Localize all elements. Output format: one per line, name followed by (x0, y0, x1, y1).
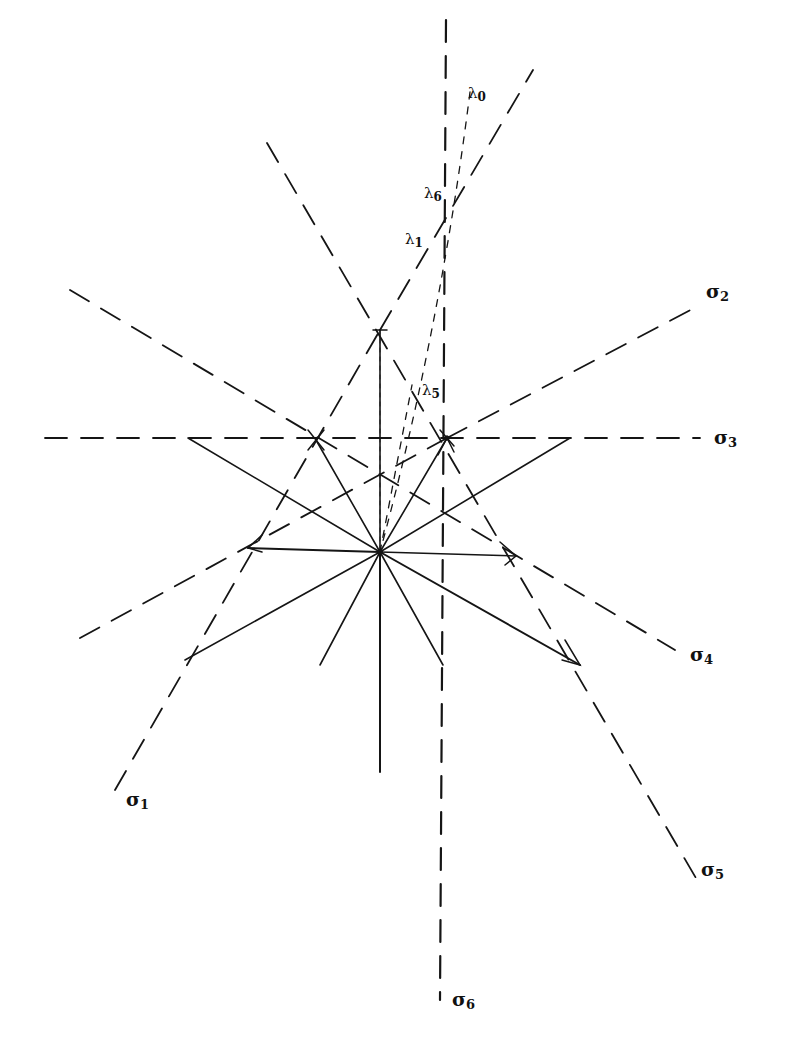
label-lambda-0: λ0 (468, 86, 486, 101)
point-b (445, 436, 449, 440)
label-sigma-6: σ6 (452, 990, 475, 1009)
sigma-1-line (115, 330, 380, 790)
label-sigma-4: σ4 (690, 645, 713, 664)
lambda-1-line (380, 70, 533, 330)
label-sigma-3: σ3 (714, 428, 737, 447)
label-lambda-5: λ5 (422, 383, 440, 398)
lower-left-line (80, 438, 447, 638)
center-point (378, 550, 383, 555)
label-sigma-5: σ5 (701, 860, 724, 879)
label-lambda-6: λ6 (424, 186, 442, 201)
dashed-lines (45, 20, 700, 1000)
sigma-6-line (440, 20, 446, 1000)
lambda-5-line (380, 385, 412, 552)
arrowhead-right (500, 542, 516, 565)
label-sigma-2: σ2 (706, 282, 729, 301)
sigma-2-line (447, 305, 700, 438)
label-lambda-1: λ1 (405, 232, 423, 247)
diagram-canvas (0, 0, 785, 1062)
label-sigma-1: σ1 (126, 790, 149, 809)
sigma-5-line (267, 143, 700, 885)
